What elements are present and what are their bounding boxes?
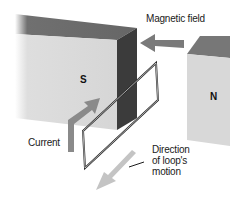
direction-label: Direction of loop's motion [152, 144, 190, 177]
north-magnet [187, 36, 230, 146]
north-magnet-front-face [187, 54, 230, 146]
direction-label-line-3: motion [152, 166, 190, 177]
direction-label-line-1: Direction [152, 144, 190, 155]
motion-arrow [96, 150, 136, 190]
south-magnet-side-face [117, 28, 137, 130]
south-magnet [15, 14, 137, 130]
magnetic-field-arrow [140, 34, 184, 52]
diagram-canvas [0, 0, 244, 204]
magnetic-field-label: Magnetic field [146, 13, 205, 24]
south-pole-label: S [80, 74, 87, 85]
north-pole-label: N [210, 91, 217, 102]
current-label: Current [28, 137, 60, 148]
direction-label-line-2: of loop's [152, 155, 190, 166]
direction-leader-line [129, 162, 144, 167]
south-magnet-front-face [15, 34, 117, 130]
